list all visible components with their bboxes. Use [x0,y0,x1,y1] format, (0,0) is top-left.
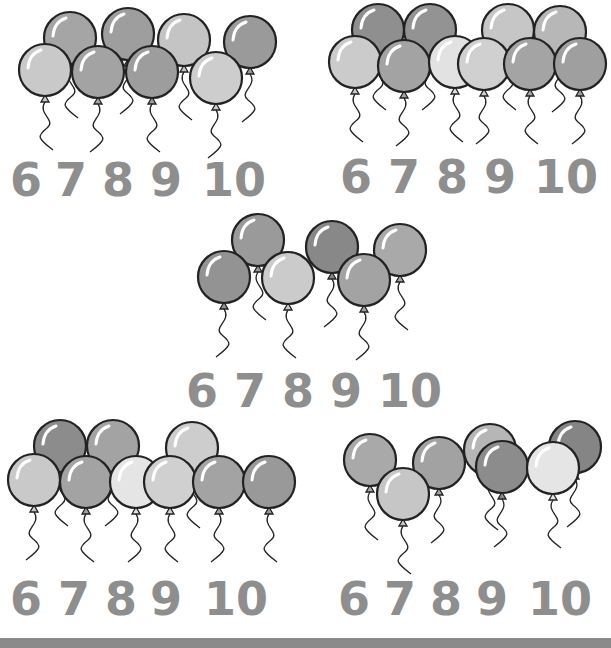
choice-10[interactable]: 10 [528,572,592,626]
balloon [377,468,429,574]
balloon [329,36,381,142]
balloon [338,254,390,360]
balloon-string [40,102,53,150]
choice-7[interactable]: 7 [388,150,420,204]
balloon-body [243,456,295,508]
balloon [458,38,510,144]
balloon-body [504,38,556,90]
balloon-string [26,512,39,560]
balloon-string [431,495,444,543]
balloon-string [216,309,229,357]
balloon-string [90,104,103,152]
balloon-string [356,312,369,360]
choice-8[interactable]: 8 [282,364,314,418]
balloon-body [377,468,429,520]
balloon-body [198,251,250,303]
balloon [554,38,606,144]
choice-10[interactable]: 10 [204,572,268,626]
balloon-body [190,52,242,104]
balloon-string [81,514,94,562]
balloon [126,46,178,152]
balloon-string [242,74,255,122]
balloon-body [262,252,314,304]
choice-9[interactable]: 9 [484,150,516,204]
number-choices-group-4: 6 7 8 9 10 [10,572,268,626]
balloon-string [283,310,296,358]
balloon-body [554,38,606,90]
worksheet-canvas: 6 7 8 9 10 6 7 8 9 10 6 7 8 9 10 6 7 8 9… [0,0,611,638]
number-choices-group-2: 6 7 8 9 10 [340,150,598,204]
choice-7[interactable]: 7 [55,153,87,207]
balloon-string [147,104,160,152]
balloon-string [350,94,363,142]
choice-8[interactable]: 8 [102,153,134,207]
balloon-string [128,514,141,562]
balloon-string [165,514,178,562]
choice-6[interactable]: 6 [10,572,42,626]
choice-6[interactable]: 6 [10,153,42,207]
choice-6[interactable]: 6 [186,364,218,418]
balloon-group-5 [344,421,601,574]
balloon-string [208,110,221,158]
balloon-group-2 [329,4,606,146]
balloon-string [264,514,277,562]
balloon-string [398,526,411,574]
balloon-body [8,454,60,506]
balloon-string [450,94,463,142]
choice-9[interactable]: 9 [150,153,182,207]
balloon-string [548,500,561,548]
balloon [193,456,245,562]
balloon-string [494,499,507,547]
choice-10[interactable]: 10 [378,364,442,418]
balloon [527,442,579,548]
choice-6[interactable]: 6 [338,572,370,626]
choice-8[interactable]: 8 [436,150,468,204]
choice-10[interactable]: 10 [202,153,266,207]
choice-10[interactable]: 10 [534,150,598,204]
balloon [504,38,556,144]
balloon [60,456,112,562]
balloon [72,46,124,152]
choice-7[interactable]: 7 [234,364,266,418]
balloon-body [527,442,579,494]
number-choices-group-5: 6 7 8 9 10 [338,572,592,626]
balloon [476,441,528,547]
balloon-string [572,96,585,144]
choice-9[interactable]: 9 [476,572,508,626]
balloon [8,454,60,560]
balloon-body [193,456,245,508]
balloon-body [144,456,196,508]
choice-7[interactable]: 7 [384,572,416,626]
balloon-body [378,40,430,92]
balloon-string [395,282,408,330]
balloon-string [365,492,378,540]
balloon [144,456,196,562]
balloon [262,252,314,358]
number-choices-group-1: 6 7 8 9 10 [10,153,266,207]
balloon [19,44,71,150]
balloon [190,52,242,158]
choice-9[interactable]: 9 [330,364,362,418]
balloon-group-4 [8,420,295,562]
choice-8[interactable]: 8 [430,572,462,626]
choice-8[interactable]: 8 [105,572,137,626]
choice-6[interactable]: 6 [340,150,372,204]
balloon-string [324,279,337,327]
balloon-group-3 [198,214,426,360]
balloon [243,456,295,562]
balloon-string [476,96,489,144]
footer-bar [0,638,611,648]
balloon-body [126,46,178,98]
balloon-body [476,441,528,493]
choice-7[interactable]: 7 [58,572,90,626]
number-choices-group-3: 6 7 8 9 10 [186,364,442,418]
balloon-group-1 [19,8,276,158]
balloon-string [525,96,538,144]
choice-9[interactable]: 9 [150,572,182,626]
balloon-body [60,456,112,508]
balloon [378,40,430,146]
balloon-body [458,38,510,90]
balloon-body [329,36,381,88]
balloon-string [211,514,224,562]
balloon-body [19,44,71,96]
